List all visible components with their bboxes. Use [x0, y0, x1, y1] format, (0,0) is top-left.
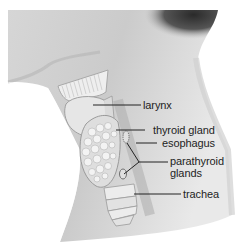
label-glands: glands — [170, 167, 202, 179]
label-trachea: trachea — [183, 188, 219, 200]
neck-illustration — [0, 0, 237, 242]
neck-anatomy-diagram: larynx thyroid gland esophagus parathyro… — [0, 0, 237, 242]
label-larynx: larynx — [143, 99, 172, 111]
label-thyroid-gland: thyroid gland — [153, 124, 215, 136]
label-esophagus: esophagus — [162, 137, 215, 149]
label-parathyroid: parathyroid — [170, 155, 224, 167]
